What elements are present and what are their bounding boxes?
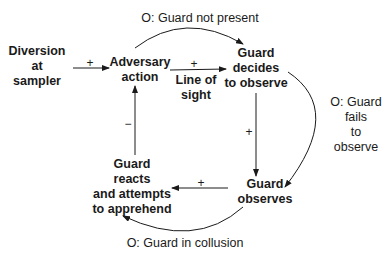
node-adversary-action: Adversary action: [109, 55, 170, 85]
causal-loop-diagram: Diversion at sampler Adversary action Gu…: [0, 0, 386, 263]
sign-observes-to-reacts: +: [197, 177, 204, 189]
sign-reacts-to-action: −: [124, 118, 131, 130]
override-label-collusion: O: Guard in collusion: [120, 236, 250, 251]
override-label-fails-to-observe: O: Guard fails to observe: [318, 95, 386, 155]
node-guard-observes: Guard observes: [238, 177, 293, 207]
node-guard-decides-to-observe: Guard decides to observe: [224, 46, 287, 91]
sign-diversion-to-action: +: [86, 57, 93, 69]
sign-action-to-decides: +: [190, 58, 197, 70]
arc-guard-not-present: [135, 28, 243, 48]
edge-action-to-decides: [170, 69, 226, 70]
arc-guard-fails-to-observe: [285, 72, 316, 187]
edge-label-line-of-sight: Line of sight: [176, 73, 217, 103]
node-diversion-at-sampler: Diversion at sampler: [9, 44, 66, 89]
node-guard-reacts: Guard reacts and attempts to apprehend: [92, 157, 171, 217]
override-label-not-present: O: Guard not present: [130, 11, 270, 26]
sign-decides-to-observes: +: [245, 126, 252, 138]
